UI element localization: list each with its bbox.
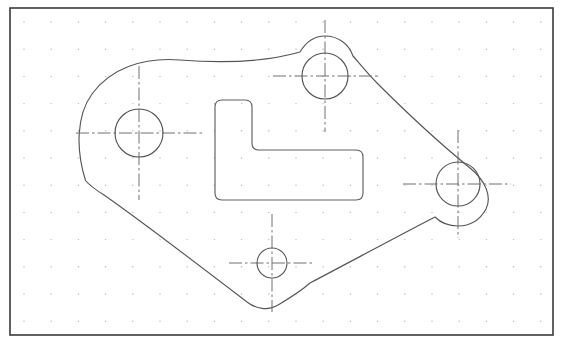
grid-dot <box>377 321 378 322</box>
grid-dot <box>268 49 269 50</box>
cad-canvas[interactable] <box>0 0 565 348</box>
grid-dot <box>486 321 487 322</box>
grid-dot <box>404 321 405 322</box>
grid-dot <box>404 293 405 294</box>
grid-dot <box>404 239 405 240</box>
grid-dot <box>241 157 242 158</box>
grid-dot <box>350 321 351 322</box>
grid-dot <box>187 212 188 213</box>
grid-dot <box>295 157 296 158</box>
grid-dot <box>486 185 487 186</box>
grid-dot <box>23 212 24 213</box>
grid-dot <box>404 266 405 267</box>
grid-dot <box>268 157 269 158</box>
grid-dot <box>78 266 79 267</box>
grid-dot <box>350 293 351 294</box>
grid-dot <box>23 293 24 294</box>
grid-dot <box>241 266 242 267</box>
grid-dot <box>459 266 460 267</box>
grid-dot <box>323 103 324 104</box>
grid-dot <box>268 185 269 186</box>
grid-dot <box>350 212 351 213</box>
grid-dot <box>459 212 460 213</box>
grid-dot <box>377 157 378 158</box>
grid-dot <box>268 266 269 267</box>
grid-dot <box>159 76 160 77</box>
grid-dot <box>295 212 296 213</box>
grid-dot <box>540 266 541 267</box>
grid-dot <box>241 76 242 77</box>
grid-dot <box>132 49 133 50</box>
grid-dot <box>23 21 24 22</box>
grid-dot <box>159 21 160 22</box>
grid-dot <box>540 321 541 322</box>
grid-dot <box>187 130 188 131</box>
grid-dot <box>459 21 460 22</box>
grid-dot <box>105 49 106 50</box>
grid-dot <box>431 21 432 22</box>
grid-dot <box>513 185 514 186</box>
grid-dot <box>431 157 432 158</box>
grid-dot <box>78 212 79 213</box>
grid-dot <box>323 130 324 131</box>
grid-dot <box>540 212 541 213</box>
grid-dot <box>51 185 52 186</box>
grid-dot <box>187 76 188 77</box>
grid-dot <box>295 103 296 104</box>
grid-dot <box>377 49 378 50</box>
grid-dot <box>214 239 215 240</box>
grid-dot <box>187 321 188 322</box>
grid-dot <box>23 157 24 158</box>
grid-dot <box>540 185 541 186</box>
grid-dot <box>513 49 514 50</box>
grid-dot <box>350 239 351 240</box>
grid-dot <box>459 130 460 131</box>
grid-dot <box>187 157 188 158</box>
grid-dot <box>295 266 296 267</box>
grid-dot <box>431 293 432 294</box>
grid-dot <box>78 185 79 186</box>
grid-dot <box>241 321 242 322</box>
grid-dot <box>513 21 514 22</box>
grid-dot <box>377 130 378 131</box>
grid-dot <box>51 239 52 240</box>
grid-dot <box>513 212 514 213</box>
grid-dot <box>404 21 405 22</box>
grid-dot <box>350 21 351 22</box>
grid-dot <box>159 130 160 131</box>
grid-dot <box>187 293 188 294</box>
grid-dot <box>323 239 324 240</box>
grid-dot <box>132 212 133 213</box>
grid-dot <box>323 21 324 22</box>
grid-dot <box>268 293 269 294</box>
grid-dot <box>540 49 541 50</box>
grid-dot <box>268 239 269 240</box>
grid-dot <box>105 103 106 104</box>
grid-dot <box>241 239 242 240</box>
grid-dot <box>431 49 432 50</box>
grid-dot <box>431 239 432 240</box>
grid-dot <box>23 239 24 240</box>
grid-dot <box>159 239 160 240</box>
grid-dot <box>486 266 487 267</box>
grid-dot <box>51 321 52 322</box>
grid-dot <box>459 321 460 322</box>
grid-dot <box>187 266 188 267</box>
grid-dot <box>459 185 460 186</box>
grid-dot <box>513 266 514 267</box>
grid-dot <box>78 76 79 77</box>
grid-dot <box>323 212 324 213</box>
grid-dot <box>295 321 296 322</box>
grid-dot <box>187 185 188 186</box>
grid-dot <box>431 130 432 131</box>
grid-dot <box>295 185 296 186</box>
grid-dot <box>404 185 405 186</box>
grid-dot <box>323 266 324 267</box>
grid-dot <box>132 293 133 294</box>
grid-dot <box>350 266 351 267</box>
grid-dot <box>23 321 24 322</box>
grid-dot <box>105 185 106 186</box>
grid-dot <box>23 130 24 131</box>
grid-dot <box>51 103 52 104</box>
grid-dot <box>431 212 432 213</box>
